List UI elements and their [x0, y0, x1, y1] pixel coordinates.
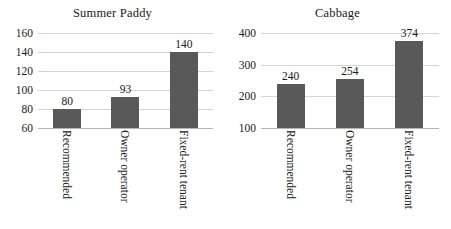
bar[interactable]: 374 [395, 41, 423, 128]
y-axis-tick-label: 160 [16, 27, 38, 39]
category-label-slot: Owner operator [320, 130, 379, 226]
bar-slot: 80 [38, 33, 96, 128]
bar-value-label: 80 [61, 95, 73, 108]
bars-group: 8093140 [38, 33, 213, 128]
y-axis-tick-label: 200 [239, 90, 261, 102]
chart-panel-summer-paddy: Summer Paddy 1601401201008060 8093140 Re… [0, 0, 225, 229]
chart-title: Cabbage [225, 5, 450, 21]
bars-group: 240254374 [261, 33, 439, 128]
category-axis-label: Fixed-rent tenant [403, 130, 415, 209]
bar-chart-figure: Summer Paddy 1601401201008060 8093140 Re… [0, 0, 451, 229]
y-axis-tick-label: 80 [22, 103, 39, 115]
bar-value-label: 374 [401, 27, 418, 40]
bar-value-label: 254 [341, 65, 358, 78]
bar-slot: 140 [155, 33, 213, 128]
bar[interactable]: 240 [277, 84, 305, 128]
category-axis-label: Fixed-rent tenant [178, 130, 190, 209]
category-axis-label: Owner operator [119, 130, 131, 202]
category-axis-label: Recommended [61, 130, 73, 199]
y-axis-tick-label: 140 [16, 46, 38, 58]
gridline: 60 [38, 128, 213, 129]
chart-title: Summer Paddy [0, 5, 225, 21]
category-label-slot: Fixed-rent tenant [380, 130, 439, 226]
category-label-slot: Recommended [38, 130, 96, 226]
chart-panel-cabbage: Cabbage 400300200100 240254374 Recommend… [225, 0, 450, 229]
y-axis-tick-label: 100 [16, 84, 38, 96]
y-axis-tick-label: 400 [239, 27, 261, 39]
plot-area: 400300200100 240254374 [261, 33, 439, 128]
plot-area: 1601401201008060 8093140 [38, 33, 213, 128]
bar-value-label: 140 [175, 38, 192, 51]
category-axis-label: Recommended [285, 130, 297, 199]
y-axis-tick-label: 300 [239, 59, 261, 71]
gridline: 100 [261, 128, 439, 129]
bar-slot: 240 [261, 33, 320, 128]
bar-slot: 374 [380, 33, 439, 128]
bar[interactable]: 140 [170, 52, 198, 128]
bar-slot: 254 [320, 33, 379, 128]
bar-value-label: 240 [282, 70, 299, 83]
bar[interactable]: 93 [111, 97, 139, 128]
y-axis-tick-label: 100 [239, 122, 261, 134]
y-axis-tick-label: 60 [22, 122, 39, 134]
bar[interactable]: 80 [53, 109, 81, 128]
y-axis-tick-label: 120 [16, 65, 38, 77]
bar-slot: 93 [96, 33, 154, 128]
category-label-slot: Fixed-rent tenant [155, 130, 213, 226]
bar-value-label: 93 [120, 83, 132, 96]
category-axis-labels: RecommendedOwner operatorFixed-rent tena… [261, 130, 439, 226]
bar[interactable]: 254 [336, 79, 364, 128]
category-axis-label: Owner operator [344, 130, 356, 202]
category-label-slot: Recommended [261, 130, 320, 226]
category-label-slot: Owner operator [96, 130, 154, 226]
category-axis-labels: RecommendedOwner operatorFixed-rent tena… [38, 130, 213, 226]
